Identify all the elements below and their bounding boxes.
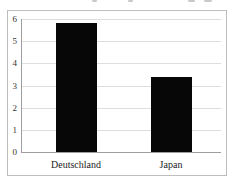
plot-area: 0123456DeutschlandJapan xyxy=(8,11,226,175)
category-label: Japan xyxy=(126,159,216,170)
y-tick-label: 6 xyxy=(8,14,17,24)
gridline xyxy=(21,41,221,42)
gridline xyxy=(21,63,221,64)
bar-japan xyxy=(151,77,192,152)
cropped-text-artifact xyxy=(204,0,212,2)
y-tick-label: 1 xyxy=(8,125,17,135)
y-tick-label: 3 xyxy=(8,81,17,91)
gridline xyxy=(21,19,221,20)
category-label: Deutschland xyxy=(31,159,121,170)
y-tick-label: 0 xyxy=(8,147,17,157)
cropped-text-artifact xyxy=(92,0,97,2)
y-axis-line xyxy=(21,19,22,153)
cropped-text-artifact xyxy=(128,0,133,2)
x-axis-line xyxy=(21,152,221,153)
cropped-text-artifact xyxy=(188,0,195,2)
y-tick-label: 4 xyxy=(8,58,17,68)
bar-chart: 0123456DeutschlandJapan xyxy=(7,10,227,176)
bar-deutschland xyxy=(56,23,97,152)
y-tick-label: 2 xyxy=(8,103,17,113)
y-tick-label: 5 xyxy=(8,36,17,46)
